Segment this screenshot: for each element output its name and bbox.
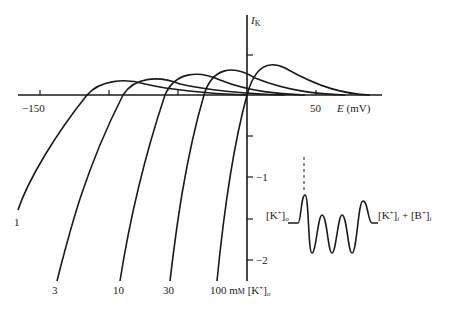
y-tick-label-neg1: −1: [256, 171, 268, 183]
curve-3mM: [57, 79, 285, 281]
y-tick-label-neg2: −2: [256, 254, 268, 266]
curve-label-1: 1: [14, 216, 20, 228]
curve-100mM: [217, 65, 370, 281]
y-axis-label: IK: [250, 14, 261, 28]
x-axis-label: E (mV): [336, 102, 371, 115]
x-tick-label-50: 50: [310, 102, 322, 114]
x-tick-label-neg150: −150: [22, 102, 45, 114]
inset-barrier-profile: [288, 195, 378, 253]
curve-label-100: 100 mM [K+]o: [210, 284, 271, 298]
inset-label-ki-bi: [K+]i + [B+]i: [378, 209, 432, 223]
curve-label-10: 10: [113, 284, 125, 296]
inset-label-ko: [K+]o: [266, 209, 289, 223]
curve-label-30: 30: [163, 284, 175, 296]
iv-curve-diagram: IK −150 50 E (mV) −1 −2 1 3 10 30 100 mM…: [0, 0, 452, 310]
curve-1mM: [18, 81, 247, 210]
curve-label-3: 3: [52, 284, 58, 296]
curve-10mM: [120, 74, 305, 281]
